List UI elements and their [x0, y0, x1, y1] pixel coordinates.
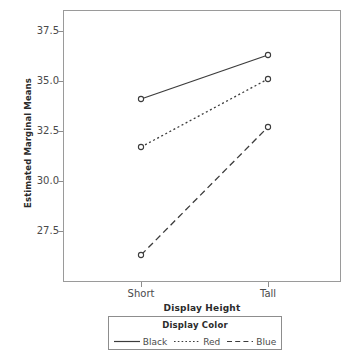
legend-entry-black[interactable]: Black [114, 337, 167, 347]
legend-line-dotted-icon [174, 338, 200, 345]
legend-title: Display Color [109, 320, 281, 330]
series-line-blue [141, 127, 268, 255]
series-line-red [141, 79, 268, 147]
legend-box: Display Color Black Red Blue [108, 316, 282, 350]
data-point-blue-short [138, 252, 143, 257]
x-tick-label-short: Short [101, 288, 181, 299]
x-axis-title: Display Height [63, 303, 341, 313]
y-tick-label-35-0: 35.0 [19, 76, 59, 86]
legend-entries: Black Red Blue [109, 334, 281, 349]
profile-plot-chart: Profile Plots Estimated Marginal Means 3… [0, 0, 360, 354]
y-tick-label-32-5: 32.5 [19, 126, 59, 136]
data-point-red-short [138, 144, 143, 149]
data-point-blue-tall [265, 124, 270, 129]
data-point-red-tall [265, 76, 270, 81]
legend-entry-blue[interactable]: Blue [227, 337, 276, 347]
legend-label-red: Red [203, 337, 220, 347]
x-tick-mark-tall [268, 282, 269, 287]
series-plot-layer [63, 10, 341, 282]
legend-label-blue: Blue [256, 337, 276, 347]
y-tick-label-30-0: 30.0 [19, 176, 59, 186]
series-line-black [141, 55, 268, 99]
legend-label-black: Black [143, 337, 167, 347]
x-tick-label-tall: Tall [228, 288, 308, 299]
x-tick-mark-short [141, 282, 142, 287]
chart-title: Profile Plots [0, 0, 360, 2]
y-tick-label-27-5: 27.5 [19, 226, 59, 236]
legend-line-solid-icon [114, 338, 140, 345]
data-point-black-short [138, 96, 143, 101]
y-tick-label-37-5: 37.5 [19, 26, 59, 36]
y-axis-title: Estimated Marginal Means [23, 43, 33, 243]
legend-line-dashed-icon [227, 338, 253, 345]
data-point-black-tall [265, 52, 270, 57]
legend-entry-red[interactable]: Red [174, 337, 220, 347]
